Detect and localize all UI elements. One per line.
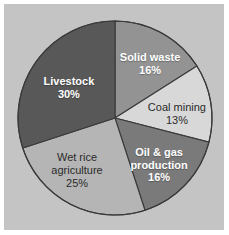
figure-panel: Solid waste 16% Coal mining 13% Oil & ga… — [4, 4, 224, 230]
pie-chart-svg — [4, 4, 224, 230]
pie-chart: Solid waste 16% Coal mining 13% Oil & ga… — [4, 4, 224, 230]
pie-slices — [18, 21, 212, 215]
